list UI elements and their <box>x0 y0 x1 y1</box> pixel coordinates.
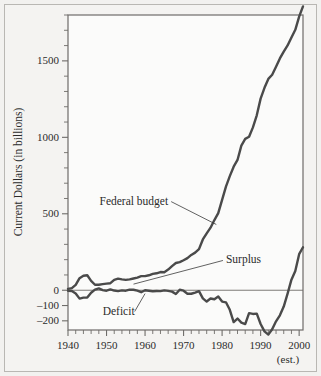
annotation-federal-budget: Federal budget <box>99 195 168 208</box>
y-tick-label: 500 <box>43 207 60 219</box>
x-tick-label: 1980 <box>211 339 234 351</box>
x-tick-label: 1940 <box>57 339 80 351</box>
x-tick-label: 1990 <box>250 339 273 351</box>
y-axis-ticks: –200–100050010001500 <box>36 15 68 326</box>
x-axis-ticks: 1940195019601970198019902000 <box>57 330 311 351</box>
budget-line-chart: –200–100050010001500 1940195019601970198… <box>0 0 321 376</box>
plot-background <box>68 15 303 330</box>
x-tick-label: 1960 <box>134 339 157 351</box>
y-tick-label: 1000 <box>37 131 60 143</box>
y-axis-title: Current Dollars (in billions) <box>12 107 25 236</box>
annotation-surplus: Surplus <box>226 253 262 266</box>
x-axis-estimate-note: (est.) <box>277 353 300 366</box>
x-tick-label: 2000 <box>288 339 311 351</box>
x-tick-label: 1970 <box>173 339 196 351</box>
x-tick-label: 1950 <box>96 339 119 351</box>
chart-figure: –200–100050010001500 1940195019601970198… <box>0 0 321 376</box>
annotation-deficit: Deficit <box>103 305 136 317</box>
y-tick-label: 0 <box>54 284 60 296</box>
y-tick-label: –100 <box>36 299 60 311</box>
y-tick-label: –200 <box>36 314 60 326</box>
y-tick-label: 1500 <box>37 54 60 66</box>
